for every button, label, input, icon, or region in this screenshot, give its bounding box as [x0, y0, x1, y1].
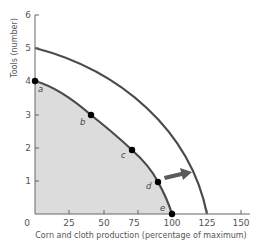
point-e: [169, 211, 175, 217]
svg-text:a: a: [38, 84, 43, 94]
point-c: [129, 147, 135, 153]
svg-text:e: e: [160, 203, 165, 213]
shift-arrow-icon: [164, 168, 192, 180]
svg-text:100: 100: [163, 218, 180, 228]
svg-text:1: 1: [25, 176, 31, 186]
ppf-chart: 6 5 4 3 2 1 0 25 50 75 100 125 150 Corn …: [0, 0, 271, 246]
svg-text:6: 6: [25, 10, 31, 20]
svg-text:d: d: [146, 181, 152, 191]
y-axis-title: Tools (number): [10, 18, 19, 79]
point-b: [88, 112, 94, 118]
x-tick-labels: 0 25 50 75 100 125 150: [24, 218, 250, 228]
x-axis-title: Corn and cloth production (percentage of…: [35, 231, 247, 240]
point-d: [155, 179, 161, 185]
svg-text:125: 125: [198, 218, 215, 228]
svg-text:4: 4: [25, 76, 31, 86]
svg-text:25: 25: [63, 218, 74, 228]
svg-text:75: 75: [128, 218, 139, 228]
svg-text:150: 150: [232, 218, 249, 228]
svg-text:b: b: [80, 117, 85, 127]
y-tick-labels: 6 5 4 3 2 1: [25, 10, 31, 186]
svg-text:2: 2: [25, 143, 31, 153]
svg-text:5: 5: [25, 43, 31, 53]
svg-text:50: 50: [98, 218, 110, 228]
svg-text:3: 3: [25, 110, 31, 120]
svg-text:0: 0: [24, 218, 30, 228]
attainable-region: [35, 81, 172, 214]
svg-text:c: c: [121, 150, 126, 160]
